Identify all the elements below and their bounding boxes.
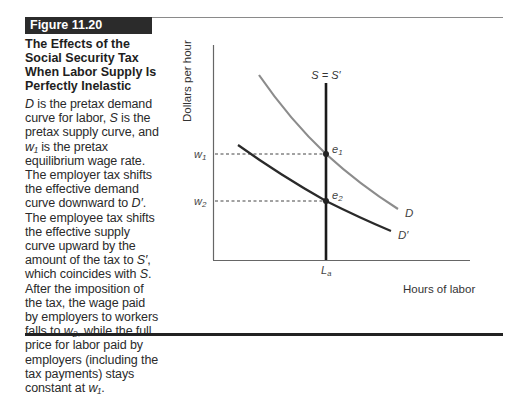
demand-label: D: [405, 207, 413, 219]
demand-curve: [259, 75, 398, 209]
e1-label: e1: [332, 143, 343, 157]
point-e2: [323, 198, 329, 204]
la-label: La: [321, 264, 331, 278]
point-e1: [323, 151, 329, 157]
w1-label: w1: [194, 148, 206, 162]
x-axis-label: Hours of labor: [403, 283, 475, 295]
supply-label: S = S′: [311, 69, 341, 81]
w2-label: w2: [194, 195, 207, 209]
e2-label: e2: [332, 189, 343, 203]
demand-shifted-label: D′: [398, 229, 409, 241]
bottom-rule: [25, 333, 503, 336]
y-axis-label: Dollars per hour: [181, 40, 193, 122]
